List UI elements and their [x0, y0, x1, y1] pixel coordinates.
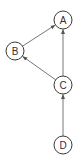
node-label: A [60, 15, 67, 26]
node-label: D [59, 140, 66, 151]
node-label: B [12, 46, 19, 57]
node-b: B [6, 42, 24, 60]
nodes-group: ABCD [6, 11, 72, 154]
node-d: D [54, 136, 72, 154]
edge-b-to-a [23, 25, 55, 46]
edge-c-to-b [23, 56, 56, 79]
node-c: C [54, 76, 72, 94]
node-label: C [59, 80, 66, 91]
node-a: A [54, 11, 72, 29]
directed-graph: ABCD [0, 0, 80, 162]
